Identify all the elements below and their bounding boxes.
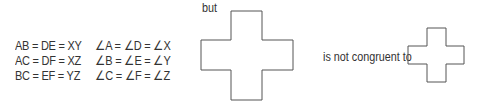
cross-shapes	[0, 0, 481, 107]
large-cross-shape	[201, 11, 293, 100]
small-cross-shape	[408, 28, 464, 82]
